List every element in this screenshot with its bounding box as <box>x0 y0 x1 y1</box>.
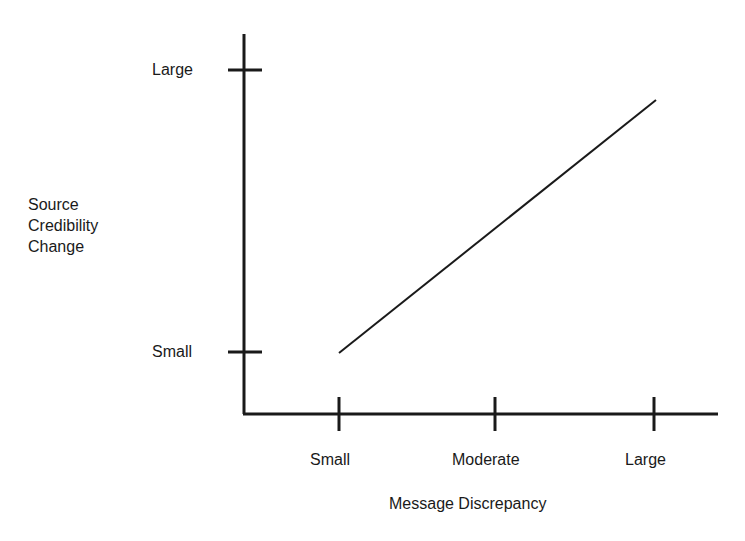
trend-line <box>339 100 656 353</box>
y-axis-title-line-1: Source <box>28 194 98 215</box>
y-tick-label-large: Large <box>152 60 193 79</box>
x-tick-label-moderate: Moderate <box>452 450 520 469</box>
y-axis-title-line-3: Change <box>28 236 98 257</box>
x-tick-label-large: Large <box>625 450 666 469</box>
x-axis-title: Message Discrepancy <box>389 494 546 513</box>
y-axis-title-line-2: Credibility <box>28 215 98 236</box>
y-axis-title: Source Credibility Change <box>28 194 98 257</box>
y-tick-label-small: Small <box>152 342 192 361</box>
x-tick-label-small: Small <box>310 450 350 469</box>
